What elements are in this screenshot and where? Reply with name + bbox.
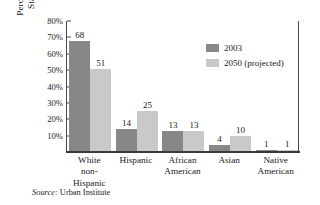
bar-value-label: 1 [264, 139, 269, 149]
bar-value-label: 14 [122, 118, 131, 128]
bar-value-label: 25 [143, 100, 152, 110]
y-axis-tick-label: 30% [17, 98, 67, 108]
source-text: Urban Institute [58, 188, 111, 197]
x-axis-category-label: Whitenon-Hispanic [66, 155, 113, 189]
y-axis-title-line-1: Percentage of United [15, 0, 27, 16]
chart-legend: 20032050 (projected) [206, 42, 284, 72]
x-axis-category-line: Hispanic [113, 155, 160, 166]
bar: 25 [137, 111, 158, 152]
bar-value-label: 10 [236, 125, 245, 135]
y-axis-tick-label: 20% [17, 114, 67, 124]
x-axis-category-label: NativeAmerican [252, 155, 299, 178]
bar-group: 1425 [114, 21, 161, 152]
plot-area: 80%70%60%50%40%30%20%10% 685114251313410… [66, 21, 299, 152]
y-axis-title-line-2: States Population [26, 0, 38, 9]
bar: 10 [230, 136, 251, 152]
bar: 14 [116, 129, 137, 152]
x-axis-category-label: Asian [206, 155, 253, 166]
x-axis-baseline [66, 151, 300, 153]
y-axis-tick-label: 70% [17, 32, 67, 42]
source-keyword: Source: [32, 188, 58, 197]
x-axis-category-line: American [159, 166, 206, 177]
bar: 13 [183, 131, 204, 152]
legend-label: 2003 [224, 43, 242, 53]
legend-color-swatch [206, 59, 219, 67]
x-axis-category-line: Native [252, 155, 299, 166]
x-axis-category-line: White [66, 155, 113, 166]
bar-group: 410 [207, 21, 254, 152]
x-axis-category-line: American [252, 166, 299, 177]
bar-group: 6851 [67, 21, 114, 152]
x-axis-category-label: Hispanic [113, 155, 160, 166]
bar-group: 1313 [160, 21, 207, 152]
bar: 51 [90, 69, 111, 153]
y-axis-tick-label: 60% [17, 49, 67, 59]
source-note: Source: Urban Institute [32, 188, 110, 197]
x-axis-category-line: non- [66, 166, 113, 177]
bar: 68 [69, 41, 90, 152]
x-axis-category-label: AfricanAmerican [159, 155, 206, 178]
bar-value-label: 68 [75, 30, 84, 40]
y-axis-tick-label: 40% [17, 82, 67, 92]
bar: 13 [162, 131, 183, 152]
y-axis-tick-label: 80% [17, 16, 67, 26]
bar-series-container: 68511425131341011 [67, 21, 298, 152]
bar-value-label: 13 [168, 120, 177, 130]
bar-value-label: 4 [217, 134, 222, 144]
x-axis-category-line: African [159, 155, 206, 166]
bar-value-label: 13 [189, 120, 198, 130]
bar-group: 11 [253, 21, 300, 152]
bar-value-label: 51 [96, 58, 105, 68]
y-axis-tick-label: 50% [17, 65, 67, 75]
bar-chart-figure: Percentage of United States Population 8… [0, 0, 320, 205]
legend-entry: 2003 [206, 42, 284, 54]
legend-entry: 2050 (projected) [206, 57, 284, 69]
y-axis-tick-label: 10% [17, 131, 67, 141]
legend-label: 2050 (projected) [224, 58, 284, 68]
x-axis-category-line: Asian [206, 155, 253, 166]
bar-value-label: 1 [285, 139, 290, 149]
legend-color-swatch [206, 44, 219, 52]
